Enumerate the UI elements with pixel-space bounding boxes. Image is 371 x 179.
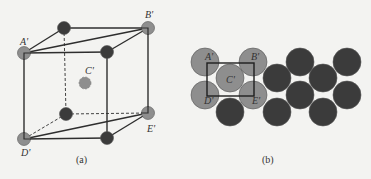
atom-dark: [263, 64, 291, 92]
atom-dark: [309, 64, 337, 92]
edge-a-b-diagonal: [24, 28, 148, 53]
caption-a: (a): [76, 154, 87, 166]
atom-dark: [216, 98, 244, 126]
edge-a-topfront: [24, 52, 107, 53]
atom-top-front-right: [101, 46, 114, 59]
label-e: E': [146, 123, 156, 134]
figure: A' B' C' D' E' (a) A' B' C' D' E' (b): [0, 0, 371, 179]
label-c-b: C': [226, 74, 236, 85]
panel-b-layer: [191, 48, 361, 126]
atom-dark: [333, 48, 361, 76]
edge-d-e-diagonal: [24, 113, 148, 139]
label-d-b: D': [203, 95, 214, 106]
atom-c: [79, 77, 91, 89]
label-b: B': [145, 9, 154, 20]
atom-dark: [333, 81, 361, 109]
hidden-edge-vertical: [64, 28, 66, 114]
label-d: D': [20, 147, 31, 158]
label-b-b: B': [251, 51, 260, 62]
atom-top-back-left: [58, 22, 71, 35]
atom-dark: [286, 81, 314, 109]
crystal-diagram: A' B' C' D' E' (a) A' B' C' D' E' (b): [0, 0, 371, 179]
label-a: A': [19, 36, 29, 47]
atom-dark: [286, 48, 314, 76]
edge-d-bottomfront: [24, 138, 107, 139]
caption-b: (b): [262, 154, 274, 166]
label-a-b: A': [204, 51, 214, 62]
label-c: C': [85, 65, 95, 76]
label-e-b: E': [251, 95, 261, 106]
atom-bottom-front-right: [101, 132, 114, 145]
atom-bottom-back-left: [60, 108, 73, 121]
atom-dark: [263, 98, 291, 126]
atom-dark: [309, 98, 337, 126]
